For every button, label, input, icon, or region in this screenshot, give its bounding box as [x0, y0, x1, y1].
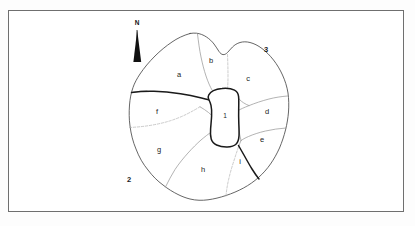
region-label-d: d — [265, 107, 269, 116]
region-label-g: g — [157, 145, 161, 154]
sketch-map-figure: N a — [0, 0, 415, 226]
outer-marker-3: 3 — [264, 45, 268, 54]
region-label-e: e — [260, 135, 264, 144]
north-letter: N — [135, 19, 140, 26]
region-label-h: h — [201, 165, 205, 174]
region-label-c: c — [246, 74, 250, 83]
region-label-b: b — [209, 56, 213, 65]
core-region-label: 1 — [223, 112, 227, 119]
figure-root: N a — [0, 0, 415, 226]
outer-marker-2: 2 — [127, 175, 131, 184]
